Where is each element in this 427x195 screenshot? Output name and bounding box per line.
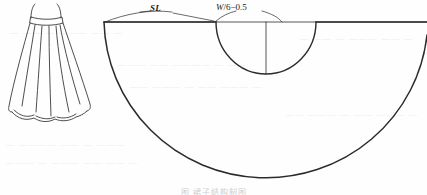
figure-canvas: — —— — ——— —— — ——— —— ———— — —— —— ——— …	[0, 0, 427, 195]
hem-arc-outline	[104, 22, 427, 178]
waist-leader-right	[262, 11, 282, 22]
waist-formula-rest: /6−0.5	[224, 2, 247, 12]
label-skirt-length: SL	[150, 3, 161, 13]
figure-caption: 图 裙子结构制图	[0, 186, 427, 195]
sl-leader-right	[173, 13, 214, 21]
waist-formula-variable: W	[216, 2, 224, 12]
pattern-draft-diagram	[0, 0, 427, 195]
waist-leader-left	[216, 11, 236, 21]
sl-curve-guide	[105, 11, 172, 22]
label-waist-formula: W/6−0.5	[216, 2, 247, 12]
